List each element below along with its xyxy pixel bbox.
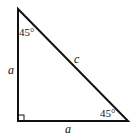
top-angle-label: 45° — [19, 26, 34, 38]
triangle — [18, 9, 128, 121]
bottom-side-label: a — [65, 122, 71, 136]
bottom-right-angle-label: 45° — [100, 107, 115, 119]
left-side-label: a — [8, 63, 14, 77]
triangle-diagram: 45° a c 45° a — [0, 0, 138, 136]
hypotenuse-label: c — [74, 52, 80, 66]
